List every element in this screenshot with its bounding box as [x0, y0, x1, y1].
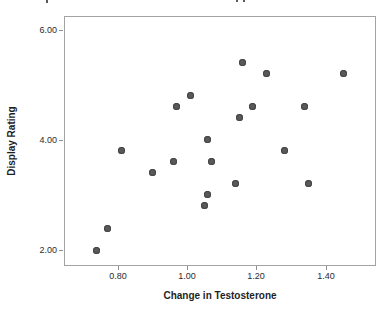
x-axis-tick — [118, 266, 119, 270]
data-point — [104, 225, 111, 232]
y-axis-title: Display Rating — [6, 106, 17, 175]
x-axis-title: Change in Testosterone — [64, 290, 376, 301]
y-axis-tick — [59, 30, 63, 31]
data-point — [236, 114, 243, 121]
y-axis-tick-label: 4.00 — [27, 135, 57, 145]
data-point — [281, 147, 288, 154]
data-point — [301, 103, 308, 110]
data-point — [173, 103, 180, 110]
data-point — [118, 147, 125, 154]
data-point — [204, 191, 211, 198]
clipped-text-fragment — [46, 0, 48, 3]
x-axis-tick — [326, 266, 327, 270]
data-point — [208, 158, 215, 165]
x-axis-tick-label: 0.80 — [101, 271, 135, 281]
x-axis-tick — [256, 266, 257, 270]
clipped-text-fragment — [243, 0, 245, 2]
y-axis-tick-label: 2.00 — [27, 245, 57, 255]
data-point — [170, 158, 177, 165]
data-point — [305, 180, 312, 187]
data-point — [232, 180, 239, 187]
x-axis-tick-label: 1.40 — [309, 271, 343, 281]
data-point — [149, 169, 156, 176]
y-axis-tick — [59, 140, 63, 141]
data-point — [239, 59, 246, 66]
data-point — [249, 103, 256, 110]
x-axis-tick-label: 1.20 — [239, 271, 273, 281]
x-axis-tick — [187, 266, 188, 270]
data-point — [201, 202, 208, 209]
x-axis-tick-label: 1.00 — [170, 271, 204, 281]
y-axis-tick-label: 6.00 — [27, 25, 57, 35]
y-axis-tick — [59, 250, 63, 251]
clipped-text-fragment — [236, 0, 238, 2]
data-point — [263, 70, 270, 77]
scatter-plot-figure: Display Rating Change in Testosterone 0.… — [0, 0, 390, 319]
data-point — [187, 92, 194, 99]
data-point — [204, 136, 211, 143]
data-point — [340, 70, 347, 77]
data-point — [93, 247, 100, 254]
